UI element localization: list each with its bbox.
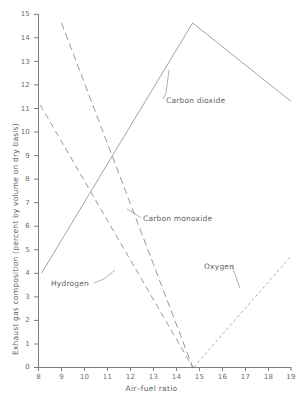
- y-tick-label-15: 15: [14, 10, 30, 18]
- exhaust-gas-composition-chart: 0 1 2 3 4 5 6 7 8 9 10 11 12 13 14 15 8 …: [0, 0, 303, 405]
- y-tick-label-14: 14: [14, 34, 30, 42]
- x-tick-label-8: 8: [32, 373, 46, 381]
- x-tick-label-15: 15: [193, 373, 207, 381]
- x-tick-label-11: 11: [101, 373, 115, 381]
- series-label-hydrogen: Hydrogen: [51, 279, 89, 288]
- x-tick-label-19: 19: [284, 373, 298, 381]
- x-tick-label-12: 12: [124, 373, 138, 381]
- series-label-carbon-dioxide: Carbon dioxide: [166, 96, 225, 105]
- y-tick-label-11: 11: [14, 105, 30, 113]
- leader-line-carbon-dioxide: [163, 70, 169, 99]
- x-tick-label-18: 18: [262, 373, 276, 381]
- y-tick-label-0: 0: [14, 363, 30, 371]
- x-tick-label-17: 17: [239, 373, 253, 381]
- y-axis-title: Exhaust gas composition (percent by volu…: [11, 123, 20, 355]
- series-line-hydrogen: [40, 105, 192, 367]
- series-line-carbon-monoxide: [62, 23, 193, 367]
- y-axis-ticks: [34, 14, 38, 367]
- footer-caption: [0, 398, 303, 405]
- x-tick-label-13: 13: [147, 373, 161, 381]
- series-label-oxygen: Oxygen: [204, 262, 234, 271]
- x-tick-label-14: 14: [170, 373, 184, 381]
- x-tick-label-16: 16: [216, 373, 230, 381]
- leader-line-hydrogen: [94, 270, 115, 283]
- series-label-carbon-monoxide: Carbon monoxide: [143, 214, 212, 223]
- y-tick-label-13: 13: [14, 58, 30, 66]
- x-tick-label-9: 9: [55, 373, 69, 381]
- x-axis-title: Air–fuel ratio: [0, 384, 303, 393]
- axis-lines: [38, 14, 291, 368]
- series-line-carbon-dioxide: [42, 23, 292, 273]
- plot-area: [0, 0, 303, 405]
- x-tick-label-10: 10: [78, 373, 92, 381]
- y-tick-label-12: 12: [14, 81, 30, 89]
- series-line-oxygen: [194, 256, 291, 367]
